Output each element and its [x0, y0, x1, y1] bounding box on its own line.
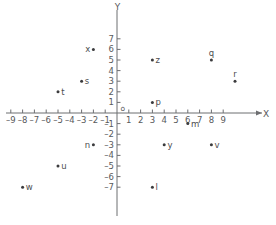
point-label: p — [156, 97, 161, 107]
point-label: l — [156, 182, 158, 192]
y-tick-label: 4 — [109, 66, 114, 76]
point-label: s — [85, 76, 90, 86]
y-tick-label: –1 — [104, 119, 114, 129]
y-tick-label: –7 — [104, 182, 114, 192]
x-tick-label: –6 — [41, 115, 51, 125]
point-label: q — [209, 48, 214, 58]
point-marker — [210, 143, 213, 146]
point-marker — [210, 59, 213, 62]
data-point-x: x — [85, 44, 95, 54]
point-marker — [163, 143, 166, 146]
x-tick-label: –9 — [6, 115, 16, 125]
y-tick-label: 6 — [109, 44, 114, 54]
point-label: m — [191, 119, 199, 129]
x-axis-label: X — [263, 109, 269, 119]
coordinate-plane-scatter-plot: –9–8–7–6–5–4–3–2–11234567897654321–1–2–3… — [0, 0, 276, 225]
data-point-s: s — [80, 76, 90, 86]
data-point-w: w — [21, 182, 33, 192]
x-tick-label: 3 — [150, 115, 155, 125]
data-point-v: v — [210, 140, 220, 150]
x-tick-label: 8 — [209, 115, 214, 125]
point-label: n — [85, 140, 90, 150]
point-label: w — [26, 182, 33, 192]
data-point-t: t — [57, 87, 66, 97]
point-label: r — [233, 69, 237, 79]
y-tick-label: 5 — [109, 55, 114, 65]
y-tick-label: –3 — [104, 140, 114, 150]
x-tick-label: –4 — [65, 115, 75, 125]
x-tick-label: 9 — [220, 115, 225, 125]
x-tick-label: –7 — [30, 115, 40, 125]
y-tick-label: –5 — [104, 161, 114, 171]
point-marker — [92, 143, 95, 146]
x-tick-label: 5 — [173, 115, 178, 125]
data-point-p: p — [151, 97, 161, 107]
y-tick-label: 7 — [109, 34, 114, 44]
point-marker — [57, 165, 60, 168]
point-marker — [92, 48, 95, 51]
x-tick-label: 2 — [138, 115, 143, 125]
x-tick-label: 4 — [161, 115, 166, 125]
data-point-r: r — [233, 69, 237, 83]
y-tick-label: –4 — [104, 150, 114, 160]
data-point-z: z — [151, 55, 161, 65]
point-label: y — [167, 140, 172, 150]
data-point-u: u — [57, 161, 67, 171]
origin-label: o — [121, 104, 126, 113]
point-label: z — [156, 55, 161, 65]
data-point-n: n — [85, 140, 95, 150]
x-axis-arrow — [256, 110, 262, 115]
point-marker — [80, 80, 83, 83]
y-tick-label: 1 — [109, 97, 114, 107]
point-marker — [151, 186, 154, 189]
x-tick-label: –2 — [89, 115, 99, 125]
data-point-l: l — [151, 182, 158, 192]
plot-canvas: –9–8–7–6–5–4–3–2–11234567897654321–1–2–3… — [0, 0, 276, 225]
data-point-q: q — [209, 48, 214, 62]
point-marker — [151, 59, 154, 62]
point-marker — [21, 186, 24, 189]
y-tick-label: 3 — [109, 76, 114, 86]
point-marker — [57, 90, 60, 93]
point-marker — [186, 122, 189, 125]
point-label: u — [61, 161, 66, 171]
y-tick-label: 2 — [109, 87, 114, 97]
x-tick-label: –5 — [53, 115, 63, 125]
point-marker — [234, 80, 237, 83]
x-tick-label: 1 — [126, 115, 131, 125]
point-label: v — [215, 140, 220, 150]
y-axis-label: Y — [114, 2, 121, 12]
x-tick-label: –3 — [77, 115, 87, 125]
point-marker — [151, 101, 154, 104]
point-label: t — [61, 87, 65, 97]
data-point-y: y — [163, 140, 173, 150]
x-tick-label: –8 — [18, 115, 28, 125]
y-tick-label: –6 — [104, 172, 114, 182]
y-tick-label: –2 — [104, 129, 114, 139]
point-label: x — [85, 44, 90, 54]
